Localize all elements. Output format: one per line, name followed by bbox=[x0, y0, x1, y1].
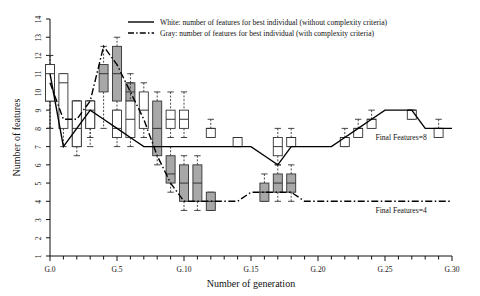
y-tick-label: 8 bbox=[34, 127, 43, 131]
y-tick-label: 10 bbox=[34, 88, 43, 96]
box bbox=[206, 128, 215, 137]
x-tick-label: G.0 bbox=[44, 265, 55, 274]
series-line-white bbox=[50, 74, 452, 165]
y-tick-label: 12 bbox=[34, 52, 43, 60]
box bbox=[233, 138, 242, 147]
y-axis-title: Number of features bbox=[11, 99, 22, 177]
y-tick-label: 1 bbox=[34, 254, 43, 258]
y-tick-label: 7 bbox=[34, 145, 43, 149]
y-tick-label: 14 bbox=[34, 16, 43, 24]
box bbox=[46, 65, 55, 101]
y-tick-label: 2 bbox=[34, 236, 43, 240]
chart-figure: G.0G.5G.10G.15G.20G.25G.30Number of gene… bbox=[0, 0, 480, 296]
y-tick-label: 11 bbox=[34, 70, 43, 77]
x-tick-label: G.25 bbox=[378, 265, 393, 274]
y-tick-label: 3 bbox=[34, 218, 43, 222]
x-tick-label: G.15 bbox=[244, 265, 259, 274]
x-tick-label: G.5 bbox=[111, 265, 122, 274]
legend-label-white: White: number of features for best indiv… bbox=[160, 18, 388, 27]
box bbox=[434, 128, 443, 137]
box bbox=[287, 138, 296, 147]
annotation-gray: Final Features=4 bbox=[375, 206, 427, 215]
box bbox=[59, 74, 68, 129]
y-tick-label: 6 bbox=[34, 163, 43, 167]
legend-label-gray: Gray: number of features for best indivi… bbox=[160, 29, 375, 38]
x-tick-label: G.10 bbox=[177, 265, 192, 274]
x-tick-label: G.30 bbox=[445, 265, 460, 274]
annotation-white: Final Features=8 bbox=[375, 133, 427, 142]
box bbox=[113, 110, 122, 137]
box bbox=[99, 65, 108, 92]
y-tick-label: 5 bbox=[34, 181, 43, 185]
y-tick-label: 13 bbox=[34, 34, 43, 42]
box bbox=[166, 156, 175, 183]
x-axis-title: Number of generation bbox=[207, 278, 295, 289]
boxplot-line-chart: G.0G.5G.10G.15G.20G.25G.30Number of gene… bbox=[0, 0, 480, 296]
y-tick-label: 4 bbox=[34, 200, 43, 204]
x-tick-label: G.20 bbox=[311, 265, 326, 274]
y-tick-label: 9 bbox=[34, 109, 43, 113]
